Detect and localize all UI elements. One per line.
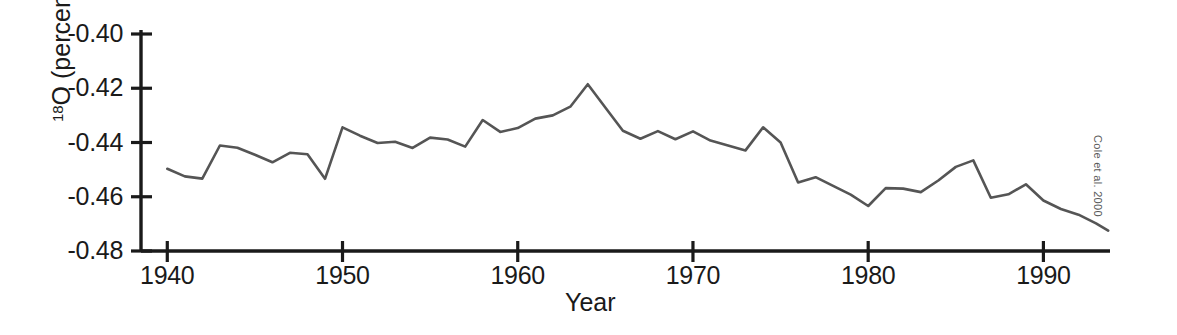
x-tick-label: 1940 [107,261,227,290]
x-tick-label: 1960 [458,261,578,290]
x-axis-label: Year [565,288,616,317]
chart-figure: 18O (percent) Year Cole et al. 2000 -0.4… [0,0,1177,335]
x-tick-label: 1950 [283,261,403,290]
y-tick-label: -0.46 [13,182,123,211]
x-tick-label: 1990 [983,261,1103,290]
y-axis-label-superscript: 18 [49,105,66,122]
y-tick-label: -0.44 [13,128,123,157]
y-tick-label: -0.42 [13,73,123,102]
x-tick-label: 1970 [633,261,753,290]
data-series-line [167,84,1108,231]
source-credit: Cole et al. 2000 [1092,135,1104,265]
x-tick-label: 1980 [808,261,928,290]
y-tick-label: -0.40 [13,19,123,48]
